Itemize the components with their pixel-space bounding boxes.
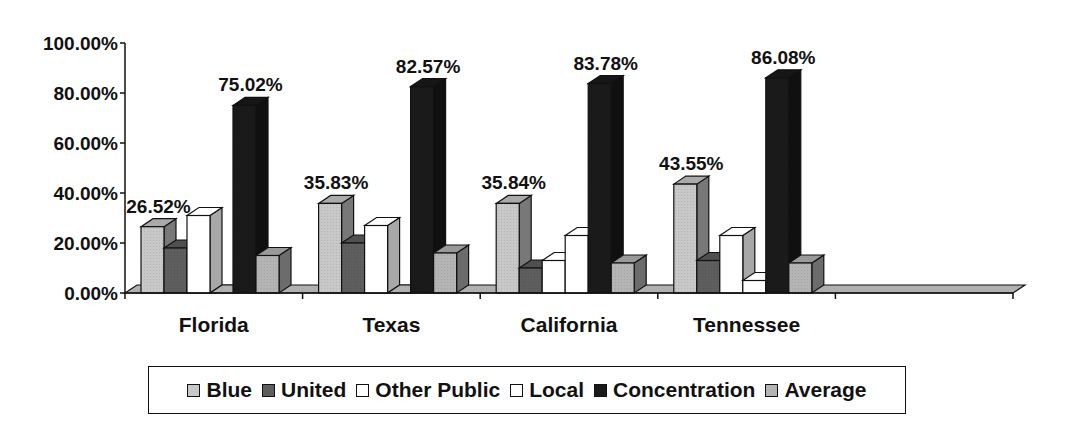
x-category-label: California bbox=[521, 313, 618, 336]
y-tick-label: 60.00% bbox=[54, 133, 119, 154]
legend-label: Concentration bbox=[613, 378, 755, 402]
legend-item: Blue bbox=[187, 378, 252, 402]
bar bbox=[365, 218, 400, 294]
data-label: 35.83% bbox=[304, 172, 369, 193]
bar bbox=[434, 245, 469, 293]
bar bbox=[789, 255, 824, 293]
legend-swatch-icon bbox=[187, 384, 200, 397]
bar bbox=[187, 208, 222, 294]
x-category-label: Florida bbox=[179, 313, 249, 336]
bars bbox=[125, 70, 1025, 293]
y-tick-label: 0.00% bbox=[64, 283, 118, 304]
data-label: 26.52% bbox=[126, 196, 191, 217]
legend-item: Other Public bbox=[356, 378, 500, 402]
data-label: 82.57% bbox=[396, 56, 461, 77]
x-category-label: Tennessee bbox=[693, 313, 800, 336]
data-label: 86.08% bbox=[751, 47, 816, 68]
x-category-label: Texas bbox=[362, 313, 420, 336]
data-label: 75.02% bbox=[218, 74, 283, 95]
y-axis: 0.00%20.00%40.00%60.00%80.00%100.00% bbox=[43, 33, 125, 304]
legend-swatch-icon bbox=[262, 384, 275, 397]
y-tick-label: 100.00% bbox=[43, 33, 118, 54]
legend-item: Local bbox=[510, 378, 584, 402]
legend-label: Local bbox=[529, 378, 584, 402]
y-tick-label: 40.00% bbox=[54, 183, 119, 204]
legend-swatch-icon bbox=[510, 384, 523, 397]
data-label: 83.78% bbox=[573, 53, 638, 74]
legend-swatch-icon bbox=[594, 384, 607, 397]
data-label: 43.55% bbox=[659, 153, 724, 174]
data-labels: 26.52%75.02%35.83%82.57%35.84%83.78%43.5… bbox=[126, 47, 815, 217]
bar bbox=[611, 255, 646, 293]
y-tick-label: 80.00% bbox=[54, 83, 119, 104]
legend-swatch-icon bbox=[356, 384, 369, 397]
legend-label: United bbox=[281, 378, 346, 402]
x-axis: FloridaTexasCaliforniaTennessee bbox=[125, 293, 1013, 336]
bar bbox=[256, 248, 291, 294]
legend-label: Average bbox=[784, 378, 866, 402]
legend-swatch-icon bbox=[765, 384, 778, 397]
legend-item: Concentration bbox=[594, 378, 755, 402]
legend-item: Average bbox=[765, 378, 866, 402]
legend-label: Other Public bbox=[375, 378, 500, 402]
legend-item: United bbox=[262, 378, 346, 402]
chart-legend: BlueUnitedOther PublicLocalConcentration… bbox=[148, 366, 906, 414]
y-tick-label: 20.00% bbox=[54, 233, 119, 254]
data-label: 35.84% bbox=[481, 172, 546, 193]
legend-label: Blue bbox=[206, 378, 252, 402]
